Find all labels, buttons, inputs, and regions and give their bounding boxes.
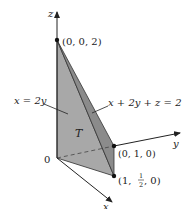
vertex-x [112, 174, 116, 178]
svg-text:2: 2 [139, 181, 143, 189]
tetrahedron-diagram: z y x 0 (0, 0, 2) (0, 1, 0) (1, 1 2 , 0)… [0, 0, 193, 209]
svg-text:(1,: (1, [118, 175, 131, 186]
svg-text:, 0): , 0) [144, 175, 161, 186]
y-axis-label: y [172, 138, 179, 149]
svg-text:1: 1 [139, 172, 143, 180]
origin-label: 0 [44, 154, 50, 165]
x-axis-label: x [103, 201, 109, 209]
z-axis-label: z [47, 8, 54, 19]
point-y-label: (0, 1, 0) [118, 148, 156, 159]
point-top-label: (0, 0, 2) [62, 36, 102, 47]
y-axis [114, 133, 180, 146]
vertex-y [112, 144, 116, 148]
plane-left-label: x = 2y [14, 95, 47, 106]
point-x-label: (1, 1 2 , 0) [118, 172, 161, 189]
plane-right-label: x + 2y + z = 2 [108, 97, 182, 108]
vertex-top [55, 38, 59, 42]
